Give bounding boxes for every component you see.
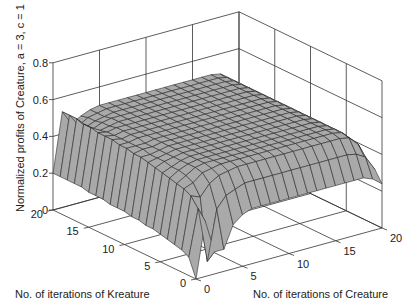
svg-text:5: 5 <box>251 270 257 282</box>
y-axis-label: No. of iterations of Kreature <box>15 288 150 300</box>
svg-text:0.6: 0.6 <box>33 94 48 106</box>
svg-text:5: 5 <box>144 260 150 272</box>
svg-text:0: 0 <box>180 277 186 289</box>
svg-text:0.4: 0.4 <box>33 130 48 142</box>
svg-text:15: 15 <box>344 245 356 257</box>
svg-text:0.8: 0.8 <box>33 57 48 69</box>
svg-text:15: 15 <box>67 225 79 237</box>
svg-text:0: 0 <box>204 283 210 295</box>
x-axis-label: No. of iterations of Creature <box>253 288 388 300</box>
svg-text:10: 10 <box>102 243 114 255</box>
svg-text:0.2: 0.2 <box>33 167 48 179</box>
svg-text:10: 10 <box>297 258 309 270</box>
z-axis-label: Normalized profits of Creature, a = 3, c… <box>14 4 26 212</box>
svg-text:20: 20 <box>390 232 402 244</box>
surface-chart: 00.20.40.60.80510152005101520 No. of ite… <box>0 0 417 307</box>
svg-text:20: 20 <box>31 208 43 220</box>
